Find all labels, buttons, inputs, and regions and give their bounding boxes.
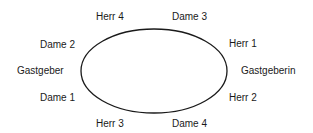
seat-gastgeber: Gastgeber <box>17 65 64 77</box>
seat-herr-3: Herr 3 <box>96 118 124 130</box>
seat-dame-3: Dame 3 <box>172 11 207 23</box>
seat-herr-4: Herr 4 <box>96 11 124 23</box>
seat-gastgeberin: Gastgeberin <box>241 65 295 77</box>
seat-dame-4: Dame 4 <box>172 118 207 130</box>
seat-herr-1: Herr 1 <box>229 38 257 50</box>
seat-dame-2: Dame 2 <box>40 39 75 51</box>
seat-herr-2: Herr 2 <box>229 92 257 104</box>
seat-dame-1: Dame 1 <box>40 92 75 104</box>
